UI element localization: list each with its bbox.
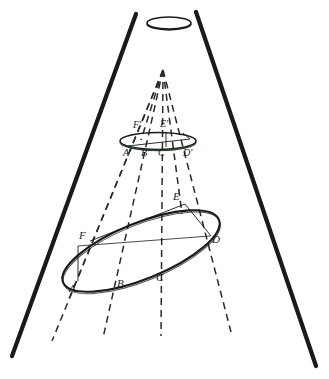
label-B-prime: B' (141, 148, 149, 158)
label-A: A (69, 283, 76, 294)
lower-chord-FE (90, 204, 185, 241)
lower-section-group (53, 194, 230, 311)
cone-diagram-svg (0, 0, 329, 379)
lower-section-ellipse (53, 194, 230, 309)
dashed-generator-C (161, 70, 163, 336)
top-cap-ellipse-group (147, 17, 191, 30)
dashed-generator-B (103, 70, 163, 338)
label-A-prime: A' (123, 148, 131, 158)
cone-diagram-figure: F' E' A' B' C' D' F E D A B C (0, 0, 329, 379)
left-generator-line (12, 14, 136, 356)
label-C-prime: C' (158, 148, 167, 158)
top-cap-ellipse (147, 17, 191, 29)
label-C: C (156, 272, 163, 283)
label-F: F (79, 230, 86, 241)
cone-outline-group (12, 12, 316, 366)
label-D-prime: D' (183, 148, 192, 158)
label-E: E (173, 191, 180, 202)
label-F-prime: F' (133, 120, 141, 130)
label-B: B (117, 278, 124, 289)
dashed-generators-group (52, 70, 231, 341)
label-D: D (212, 234, 220, 245)
upper-chord-ApDp (128, 139, 190, 146)
dashed-generator-extra-left (141, 70, 163, 140)
dashed-generator-F (69, 70, 163, 299)
right-generator-line (196, 12, 316, 366)
label-E-prime: E' (160, 119, 168, 129)
lower-connector-ED (185, 204, 211, 236)
